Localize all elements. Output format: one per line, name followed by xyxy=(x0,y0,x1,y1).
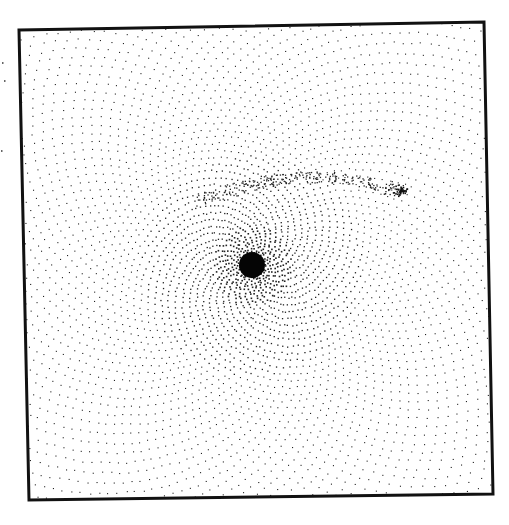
galaxy-nucleus xyxy=(239,252,265,278)
margin-marks xyxy=(1,62,6,152)
particle-plot xyxy=(0,0,509,525)
